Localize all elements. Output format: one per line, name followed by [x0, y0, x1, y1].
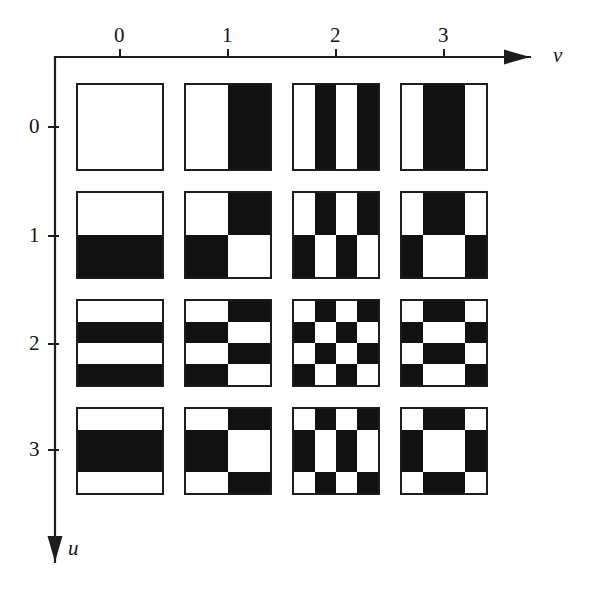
basis-pixel-r3-c3: [249, 472, 270, 493]
basis-pixel-r2-c2: [228, 451, 249, 472]
basis-pixel-r1-c1: [315, 214, 336, 235]
basis-pixel-r1-c2: [228, 430, 249, 451]
basis-pixel-r0-c0: [186, 301, 207, 322]
v-axis-label: v: [553, 45, 562, 66]
basis-pixel-r1-c2: [336, 106, 357, 127]
basis-pixel-r1-c1: [423, 214, 444, 235]
basis-pixel-r1-c3: [357, 430, 378, 451]
basis-pixel-r2-c0: [294, 343, 315, 364]
basis-pixel-r0-c0: [294, 85, 315, 106]
basis-pixel-r3-c1: [99, 364, 120, 385]
basis-pixel-r3-c0: [78, 472, 99, 493]
basis-pixel-r3-c3: [465, 364, 486, 385]
basis-pixel-r1-c2: [444, 430, 465, 451]
basis-pixel-r3-c3: [357, 364, 378, 385]
basis-pixel-r0-c1: [315, 301, 336, 322]
basis-pixel-r1-c0: [78, 106, 99, 127]
basis-pixel-r0-c2: [444, 193, 465, 214]
basis-pixel-r3-c0: [402, 472, 423, 493]
basis-pixel-r3-c2: [120, 364, 141, 385]
basis-pixel-r2-c3: [141, 127, 162, 148]
basis-tile-u1-v3: [400, 191, 488, 279]
basis-pixel-r2-c1: [423, 127, 444, 148]
v-axis-tick-label-2: 2: [330, 25, 341, 46]
basis-pixel-r0-c0: [402, 193, 423, 214]
basis-pixel-r3-c0: [402, 364, 423, 385]
basis-pixel-r0-c2: [444, 301, 465, 322]
arrow-down-icon: [48, 536, 63, 562]
basis-pixel-r0-c2: [228, 193, 249, 214]
basis-pixel-r0-c3: [141, 409, 162, 430]
basis-pixel-r2-c2: [120, 127, 141, 148]
basis-pixel-r3-c0: [294, 256, 315, 277]
basis-pixel-r2-c0: [402, 343, 423, 364]
basis-pixel-r0-c1: [99, 85, 120, 106]
basis-pixel-r0-c2: [228, 301, 249, 322]
basis-pixel-r2-c0: [294, 235, 315, 256]
basis-pixel-r0-c3: [249, 85, 270, 106]
basis-pixel-r0-c1: [315, 85, 336, 106]
basis-pixel-r1-c2: [336, 214, 357, 235]
basis-pixel-r2-c1: [207, 343, 228, 364]
basis-pixel-r3-c1: [207, 148, 228, 169]
basis-pixel-r2-c0: [78, 343, 99, 364]
basis-pixel-r3-c3: [357, 148, 378, 169]
basis-pixel-r2-c2: [228, 343, 249, 364]
basis-pixel-r1-c2: [228, 214, 249, 235]
basis-pixel-r1-c3: [357, 322, 378, 343]
basis-pixel-r1-c2: [336, 430, 357, 451]
basis-pixel-r1-c0: [294, 214, 315, 235]
basis-pixel-r3-c1: [99, 256, 120, 277]
basis-pixel-r0-c2: [336, 85, 357, 106]
basis-pixel-r3-c0: [294, 364, 315, 385]
basis-pixel-r3-c0: [78, 148, 99, 169]
basis-pixel-r0-c0: [78, 85, 99, 106]
basis-pixel-r3-c0: [402, 256, 423, 277]
basis-pixel-r1-c0: [186, 106, 207, 127]
basis-pixel-r2-c3: [465, 127, 486, 148]
basis-pixel-r0-c0: [294, 409, 315, 430]
basis-pixel-r1-c0: [78, 322, 99, 343]
basis-pixel-r3-c2: [228, 472, 249, 493]
basis-pixel-r1-c3: [141, 322, 162, 343]
basis-pixel-r3-c1: [315, 364, 336, 385]
basis-pixel-r2-c0: [78, 451, 99, 472]
basis-pixel-r1-c3: [141, 214, 162, 235]
basis-pixel-r3-c3: [357, 256, 378, 277]
basis-pixel-r2-c1: [99, 127, 120, 148]
basis-pixel-r1-c3: [141, 106, 162, 127]
basis-pixel-r0-c3: [357, 409, 378, 430]
basis-pixel-r3-c0: [78, 364, 99, 385]
basis-pixel-r2-c2: [336, 127, 357, 148]
basis-pixel-r2-c1: [423, 235, 444, 256]
u-axis-tick-label-2: 2: [29, 333, 40, 354]
basis-pixel-r2-c3: [141, 451, 162, 472]
basis-pixel-r1-c0: [402, 322, 423, 343]
basis-pixel-r2-c3: [465, 343, 486, 364]
basis-tile-u3-v0: [76, 407, 164, 495]
basis-pixel-r1-c3: [357, 214, 378, 235]
basis-pixel-r1-c0: [186, 430, 207, 451]
basis-pixel-r2-c3: [141, 343, 162, 364]
basis-pixel-r3-c2: [444, 148, 465, 169]
basis-pixel-r0-c3: [249, 301, 270, 322]
basis-pixel-r1-c1: [207, 106, 228, 127]
basis-pixel-r1-c2: [336, 322, 357, 343]
basis-pixel-r1-c1: [315, 322, 336, 343]
basis-pixel-r0-c1: [315, 409, 336, 430]
basis-pixel-r3-c3: [141, 148, 162, 169]
basis-pixel-r1-c3: [465, 322, 486, 343]
basis-pixel-r0-c1: [99, 301, 120, 322]
basis-pixel-r0-c1: [315, 193, 336, 214]
basis-pixel-r2-c1: [315, 343, 336, 364]
basis-pixel-r0-c0: [186, 193, 207, 214]
basis-pixel-r2-c0: [78, 235, 99, 256]
basis-pixel-r2-c3: [357, 451, 378, 472]
basis-pixel-r2-c3: [357, 127, 378, 148]
basis-pixel-r3-c2: [444, 256, 465, 277]
basis-pixel-r2-c1: [423, 451, 444, 472]
basis-pixel-r2-c2: [228, 127, 249, 148]
basis-pixel-r0-c1: [99, 409, 120, 430]
basis-pixel-r3-c1: [207, 472, 228, 493]
basis-pixel-r2-c1: [99, 343, 120, 364]
